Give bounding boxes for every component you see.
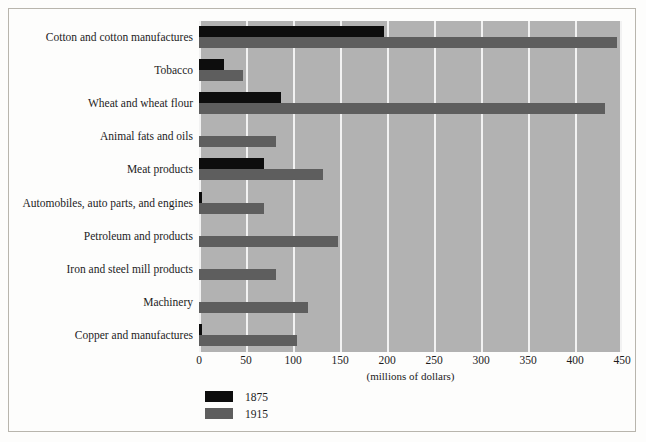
legend-item-1875: 1875 bbox=[205, 388, 268, 405]
bar-1915-2 bbox=[199, 103, 605, 114]
bar-1875-1 bbox=[199, 59, 224, 70]
gridline bbox=[434, 21, 436, 352]
category-label: Cotton and cotton manufactures bbox=[10, 31, 193, 43]
x-tick-label: 250 bbox=[425, 354, 442, 366]
legend-label-1915: 1915 bbox=[245, 408, 268, 420]
category-label: Tobacco bbox=[10, 64, 193, 76]
chart-legend: 1875 1915 bbox=[205, 388, 268, 422]
legend-swatch-1875 bbox=[205, 391, 233, 402]
plot-area bbox=[199, 21, 622, 352]
legend-item-1915: 1915 bbox=[205, 405, 268, 422]
x-tick-label: 300 bbox=[472, 354, 489, 366]
bar-1915-5 bbox=[199, 203, 264, 214]
gridline bbox=[620, 21, 622, 352]
legend-swatch-1915 bbox=[205, 408, 233, 419]
category-label: Meat products bbox=[10, 163, 193, 175]
x-tick-label: 100 bbox=[284, 354, 301, 366]
bar-1875-5 bbox=[199, 192, 202, 203]
bar-1875-2 bbox=[199, 92, 281, 103]
bar-1915-9 bbox=[199, 335, 297, 346]
gridline bbox=[387, 21, 389, 352]
legend-label-1875: 1875 bbox=[245, 391, 268, 403]
x-tick-label: 150 bbox=[331, 354, 348, 366]
bar-1915-3 bbox=[199, 136, 276, 147]
gridline bbox=[575, 21, 577, 352]
x-tick-label: 50 bbox=[240, 354, 252, 366]
x-tick-label: 350 bbox=[519, 354, 536, 366]
category-axis-labels: Cotton and cotton manufacturesTobaccoWhe… bbox=[10, 21, 193, 352]
bar-1875-0 bbox=[199, 26, 384, 37]
gridline bbox=[528, 21, 530, 352]
bar-1915-6 bbox=[199, 236, 338, 247]
bar-1875-4 bbox=[199, 158, 264, 169]
x-axis-title: (millions of dollars) bbox=[199, 370, 622, 382]
bar-1915-4 bbox=[199, 169, 323, 180]
bar-1915-7 bbox=[199, 269, 276, 280]
x-axis-ticks: 050100150200250300350400450 bbox=[199, 354, 622, 370]
bar-1915-0 bbox=[199, 37, 617, 48]
bar-1915-1 bbox=[199, 70, 243, 81]
category-label: Iron and steel mill products bbox=[10, 263, 193, 275]
chart-figure: Cotton and cotton manufacturesTobaccoWhe… bbox=[0, 0, 646, 442]
gridline bbox=[340, 21, 342, 352]
category-label: Animal fats and oils bbox=[10, 130, 193, 142]
bar-1915-8 bbox=[199, 302, 308, 313]
gridline bbox=[481, 21, 483, 352]
x-tick-label: 200 bbox=[378, 354, 395, 366]
category-label: Copper and manufactures bbox=[10, 329, 193, 341]
category-label: Machinery bbox=[10, 296, 193, 308]
category-label: Wheat and wheat flour bbox=[10, 97, 193, 109]
x-tick-label: 400 bbox=[566, 354, 583, 366]
bar-1875-9 bbox=[199, 324, 202, 335]
x-tick-label: 0 bbox=[196, 354, 202, 366]
category-label: Petroleum and products bbox=[10, 230, 193, 242]
x-tick-label: 450 bbox=[613, 354, 630, 366]
category-label: Automobiles, auto parts, and engines bbox=[10, 197, 193, 209]
